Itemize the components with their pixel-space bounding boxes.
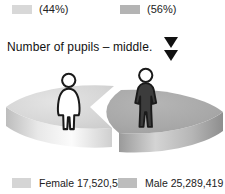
female-value-label: Female 17,520,586 [39,178,129,189]
male-percent-swatch [120,5,140,14]
legend-item-female-percent: (44%) [12,0,68,18]
legend-item-male-percent: (56%) [120,0,176,18]
male-value-label: Male 25,289,419 [145,178,223,189]
percent-legend: (44%) (56%) [0,0,225,18]
male-percent-label: (56%) [147,4,176,15]
triangle-down-icon [164,37,178,48]
chart-caption: Number of pupils – middle. [7,37,225,55]
caption-text: Number of pupils – middle. [7,40,152,54]
female-percent-swatch [12,5,32,14]
pie-chart [0,55,225,173]
female-percent-label: (44%) [39,4,68,15]
value-legend: Female 17,520,586 Male 25,289,419 [0,174,225,194]
female-value-swatch [12,178,31,188]
pie-chart-svg [0,55,225,173]
pie-slice-male [106,90,223,153]
legend-item-female-value: Female 17,520,586 [12,174,129,192]
legend-item-male-value: Male 25,289,419 [118,174,223,192]
male-value-swatch [118,178,137,188]
